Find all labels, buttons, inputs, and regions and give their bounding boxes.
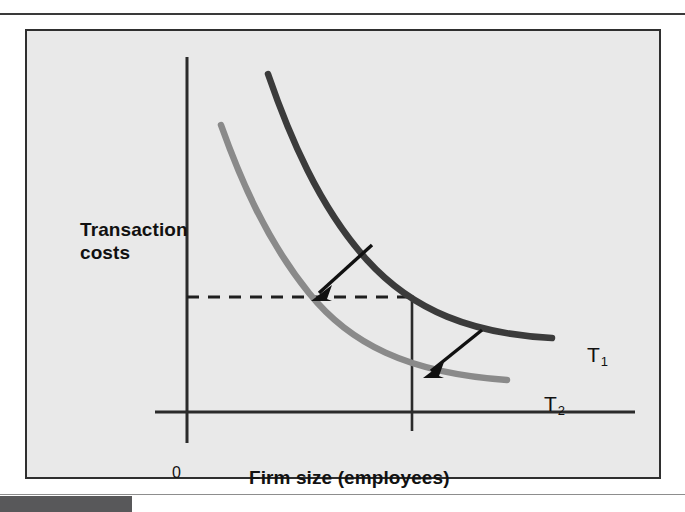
curve-label-t2-sub: 2 <box>558 403 565 418</box>
page-top-rule <box>0 13 685 15</box>
curve-label-t1-sub: 1 <box>601 354 608 369</box>
origin-label: 0 <box>172 463 181 483</box>
x-axis-label: Firm size (employees) <box>249 466 450 489</box>
page-footer-block <box>0 496 132 512</box>
y-axis-label: Transaction costs <box>80 218 188 264</box>
curve-label-t1: T1 <box>587 343 607 367</box>
shift-arrow-upper <box>311 245 372 301</box>
curve-label-t1-base: T <box>587 343 600 366</box>
curve-label-t2-base: T <box>544 392 557 415</box>
page-footer-rule <box>0 494 685 495</box>
figure-panel: Transaction costs Firm size (employees) … <box>25 29 661 479</box>
y-axis-label-line1: Transaction costs <box>80 219 188 263</box>
curve-label-t2: T2 <box>544 392 564 416</box>
